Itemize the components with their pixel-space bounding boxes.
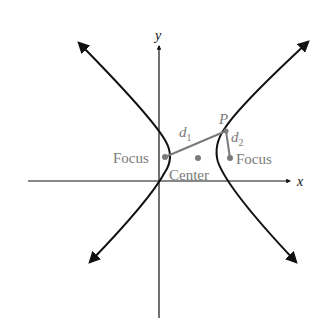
focus-right-point (227, 155, 233, 161)
d1-label: d1 (179, 124, 192, 143)
center-point (195, 155, 201, 161)
d2-label: d2 (231, 129, 244, 148)
focus-left-label: Focus (113, 150, 149, 166)
y-axis-label: y (153, 28, 162, 43)
diagram-svg: y x Focus Focus Center P d1 d2 (0, 0, 330, 332)
x-axis-label: x (296, 174, 304, 189)
d2-segment (226, 131, 230, 158)
focus-left-point (162, 154, 168, 160)
point-p (224, 129, 229, 134)
hyperbola-diagram: y x Focus Focus Center P d1 d2 (0, 0, 330, 332)
focus-right-label: Focus (236, 151, 272, 167)
center-label: Center (169, 167, 209, 183)
point-p-label: P (218, 111, 228, 127)
